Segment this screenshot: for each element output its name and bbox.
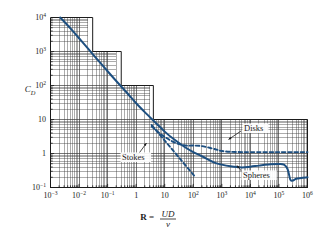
x-axis-title-symbol: R =	[140, 212, 154, 222]
x-axis-title-denominator: ν	[166, 219, 170, 229]
annotation-label-disks: Disks	[244, 123, 263, 133]
annotation-label-stokes: Stokes	[122, 152, 145, 162]
annotation-label-spheres: Spheres	[243, 170, 270, 180]
drag-coefficient-chart: 10−310−210−1110102103104105106 10−111010…	[0, 0, 325, 245]
y-tick-label-1: 1	[42, 149, 46, 158]
x-axis-title-numerator: UD	[162, 209, 175, 219]
x-tick-label-3: 1	[134, 191, 138, 200]
x-tick-label-4: 10	[161, 191, 169, 200]
y-tick-label-2: 10	[38, 115, 46, 124]
